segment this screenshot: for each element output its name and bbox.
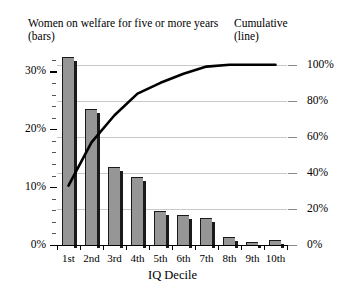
- x-axis-tick: [218, 245, 219, 250]
- right-axis-tick: [288, 209, 297, 210]
- x-axis-label-5th: 5th: [149, 252, 172, 264]
- right-axis-tick: [288, 245, 297, 246]
- right-axis-tick: [288, 101, 297, 102]
- x-axis-tick: [172, 245, 173, 250]
- left-axis-tick-label: 30%: [25, 65, 46, 77]
- x-axis-tick: [103, 245, 104, 250]
- plot-area: [57, 54, 287, 245]
- chart-container: Women on welfare for five or more years …: [0, 0, 345, 305]
- right-axis-tick-label: 20%: [307, 203, 328, 215]
- chart-title-bars: Women on welfare for five or more years …: [28, 17, 218, 43]
- x-axis-label-8th: 8th: [218, 252, 241, 264]
- left-axis-minor-tick: [52, 176, 56, 177]
- right-axis-tick: [288, 137, 297, 138]
- left-axis-tick: [50, 187, 57, 188]
- left-axis-minor-tick: [52, 83, 56, 84]
- x-axis-label-6th: 6th: [172, 252, 195, 264]
- x-axis-tick: [149, 245, 150, 250]
- right-axis-tick: [288, 65, 297, 66]
- x-axis-tick: [80, 245, 81, 250]
- left-axis-minor-tick: [52, 118, 56, 119]
- x-axis-tick: [241, 245, 242, 250]
- x-axis-label-10th: 10th: [264, 252, 287, 264]
- x-axis-tick: [126, 245, 127, 250]
- left-axis-tick: [50, 245, 57, 246]
- x-axis-tick: [195, 245, 196, 250]
- x-axis-label-1st: 1st: [57, 252, 80, 264]
- x-axis-label-7th: 7th: [195, 252, 218, 264]
- left-axis-minor-tick: [52, 199, 56, 200]
- x-axis-title: IQ Decile: [0, 268, 345, 283]
- left-axis-tick-label: 0%: [31, 239, 46, 251]
- left-axis-minor-tick: [52, 222, 56, 223]
- right-axis-tick: [288, 173, 297, 174]
- chart-title-line: Cumulative (line): [234, 17, 288, 43]
- left-axis-minor-tick: [52, 152, 56, 153]
- left-axis-minor-tick: [52, 210, 56, 211]
- right-axis-tick-label: 80%: [307, 95, 328, 107]
- left-axis-minor-tick: [52, 164, 56, 165]
- left-axis-tick: [50, 71, 57, 72]
- left-axis-minor-tick: [52, 233, 56, 234]
- left-axis-tick: [50, 129, 57, 130]
- left-axis-tick-label: 20%: [25, 123, 46, 135]
- right-axis-tick-label: 40%: [307, 167, 328, 179]
- left-axis-minor-tick: [52, 141, 56, 142]
- left-axis-minor-tick: [52, 60, 56, 61]
- x-axis-tick: [264, 245, 265, 250]
- right-axis-tick-label: 100%: [307, 59, 334, 71]
- x-axis-label-4th: 4th: [126, 252, 149, 264]
- left-axis-minor-tick: [52, 95, 56, 96]
- x-axis-label-9th: 9th: [241, 252, 264, 264]
- x-axis-tick: [57, 245, 58, 250]
- cumulative-line: [57, 54, 287, 245]
- left-axis-minor-tick: [52, 106, 56, 107]
- right-axis-tick-label: 0%: [307, 239, 322, 251]
- x-axis-label-3rd: 3rd: [103, 252, 126, 264]
- right-axis-tick-label: 60%: [307, 131, 328, 143]
- x-axis-label-2nd: 2nd: [80, 252, 103, 264]
- left-axis-tick-label: 10%: [25, 181, 46, 193]
- x-axis-tick: [287, 245, 288, 250]
